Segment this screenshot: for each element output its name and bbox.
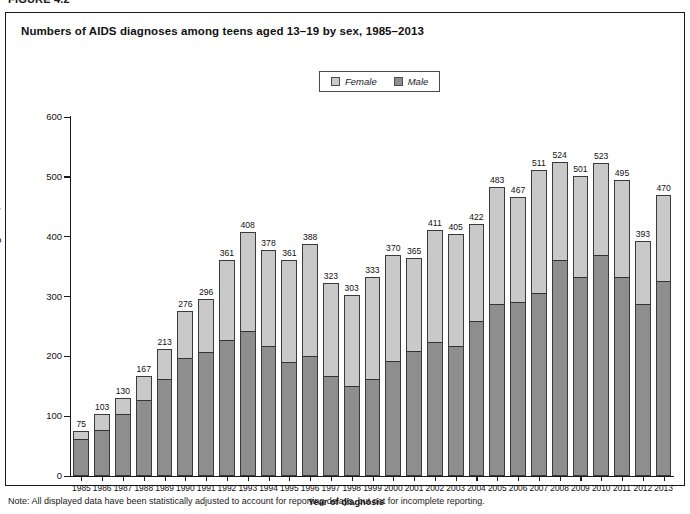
bar-segment-male[interactable] [470, 321, 484, 475]
x-axis-tick [123, 477, 124, 481]
bar-segment-male[interactable] [386, 361, 400, 475]
bar-group[interactable]: 303 [344, 117, 360, 476]
bar-segment-female[interactable] [531, 170, 547, 476]
bar-segment-female[interactable] [136, 376, 152, 476]
y-axis-tick [64, 356, 70, 357]
bar-group[interactable]: 361 [281, 117, 297, 476]
bar-group[interactable]: 365 [406, 117, 422, 476]
bar-group[interactable]: 296 [198, 117, 214, 476]
x-axis-tick [352, 477, 353, 481]
x-axis-tick [414, 477, 415, 481]
legend-entry-female: Female [331, 76, 377, 87]
bar-segment-male[interactable] [490, 304, 504, 475]
bar-segment-male[interactable] [657, 281, 671, 475]
bar-group[interactable]: 103 [94, 117, 110, 476]
bar-group[interactable]: 323 [323, 117, 339, 476]
bar-segment-male[interactable] [199, 352, 213, 475]
bar-segment-male[interactable] [511, 302, 525, 475]
bar-segment-female[interactable] [198, 299, 214, 476]
x-axis-tick [456, 477, 457, 481]
bar-segment-male[interactable] [241, 331, 255, 475]
bar-group[interactable]: 388 [302, 117, 318, 476]
bar-segment-female[interactable] [177, 311, 193, 476]
bar-group[interactable]: 213 [157, 117, 173, 476]
bar-segment-male[interactable] [178, 358, 192, 475]
bar-segment-male[interactable] [137, 400, 151, 475]
bar-group[interactable]: 333 [365, 117, 381, 476]
bar-segment-female[interactable] [365, 277, 381, 476]
bar-group[interactable]: 130 [115, 117, 131, 476]
bar-segment-female[interactable] [115, 398, 131, 476]
x-axis-tick [310, 477, 311, 481]
bar-group[interactable]: 378 [261, 117, 277, 476]
bar-segment-male[interactable] [636, 304, 650, 475]
legend-label-male: Male [408, 76, 429, 87]
bar-group[interactable]: 501 [573, 117, 589, 476]
bar-segment-female[interactable] [344, 295, 360, 476]
bar-segment-male[interactable] [262, 346, 276, 475]
bar-segment-female[interactable] [406, 258, 422, 476]
y-axis-tick [64, 296, 70, 297]
bar-segment-male[interactable] [116, 414, 130, 475]
x-axis-tick [435, 477, 436, 481]
bar-group[interactable]: 393 [635, 117, 651, 476]
x-axis-tick [81, 477, 82, 481]
bar-segment-male[interactable] [95, 430, 109, 475]
bar-segment-male[interactable] [345, 386, 359, 475]
x-axis-tick-label: 2013 [647, 483, 681, 493]
bar-segment-female[interactable] [281, 260, 297, 476]
bar-segment-female[interactable] [73, 431, 89, 476]
bar-group[interactable]: 411 [427, 117, 443, 476]
bar-group[interactable]: 75 [73, 117, 89, 476]
bar-segment-female[interactable] [427, 230, 443, 476]
bar-segment-female[interactable] [656, 195, 672, 476]
bar-segment-female[interactable] [261, 250, 277, 476]
bar-segment-female[interactable] [94, 414, 110, 476]
bar-segment-female[interactable] [219, 260, 235, 476]
bar-segment-male[interactable] [553, 260, 567, 475]
bar-segment-female[interactable] [469, 224, 485, 476]
bar-segment-male[interactable] [74, 439, 88, 475]
bar-segment-male[interactable] [282, 362, 296, 475]
bar-segment-male[interactable] [532, 293, 546, 475]
bar-segment-female[interactable] [385, 255, 401, 476]
bar-segment-female[interactable] [510, 197, 526, 476]
bar-group[interactable]: 467 [510, 117, 526, 476]
bar-segment-male[interactable] [407, 351, 421, 475]
bar-segment-female[interactable] [635, 241, 651, 476]
bar-group[interactable]: 495 [614, 117, 630, 476]
bar-segment-male[interactable] [428, 342, 442, 475]
bar-segment-male[interactable] [324, 376, 338, 475]
y-axis-tick-label: 200 [10, 350, 62, 361]
bar-group[interactable]: 405 [448, 117, 464, 476]
bar-group[interactable]: 167 [136, 117, 152, 476]
y-axis-tick [64, 476, 70, 477]
bar-group[interactable]: 470 [656, 117, 672, 476]
bar-group[interactable]: 408 [240, 117, 256, 476]
bar-group[interactable]: 370 [385, 117, 401, 476]
bar-segment-male[interactable] [594, 255, 608, 475]
bar-segment-male[interactable] [158, 379, 172, 475]
bar-segment-female[interactable] [157, 349, 173, 476]
bar-group[interactable]: 361 [219, 117, 235, 476]
bar-segment-male[interactable] [366, 379, 380, 475]
bar-group[interactable]: 422 [469, 117, 485, 476]
bar-segment-male[interactable] [220, 340, 234, 475]
x-axis-tick [518, 477, 519, 481]
bar-segment-male[interactable] [574, 277, 588, 475]
bar-segment-female[interactable] [323, 283, 339, 476]
bar-segment-male[interactable] [303, 356, 317, 475]
legend-entry-male: Male [394, 76, 429, 87]
bar-segment-female[interactable] [489, 187, 505, 476]
bar-segment-female[interactable] [614, 180, 630, 476]
bar-group[interactable]: 511 [531, 117, 547, 476]
bar-segment-female[interactable] [240, 232, 256, 476]
bar-segment-male[interactable] [615, 277, 629, 475]
bar-group[interactable]: 483 [489, 117, 505, 476]
bar-segment-female[interactable] [552, 162, 568, 476]
bar-segment-male[interactable] [449, 346, 463, 475]
bar-segment-female[interactable] [448, 234, 464, 476]
bar-segment-female[interactable] [593, 163, 609, 476]
bar-segment-female[interactable] [573, 176, 589, 476]
x-axis-tick [476, 477, 477, 481]
